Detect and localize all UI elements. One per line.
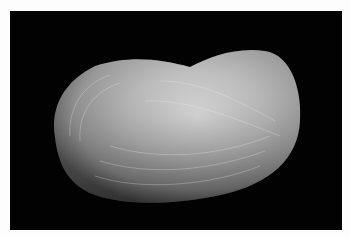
photo-frame <box>10 11 342 230</box>
shell-image <box>10 11 342 230</box>
